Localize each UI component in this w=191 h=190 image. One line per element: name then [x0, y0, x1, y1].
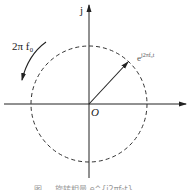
- figure-caption: 图 … 旋转相量 e^{j2πf₀t}: [34, 183, 133, 190]
- vector-label: ej2πf₀t: [137, 52, 154, 63]
- imaginary-axis-label: j: [80, 4, 83, 16]
- phasor-diagram: [0, 0, 191, 190]
- rotation-label: 2π f₀: [12, 40, 33, 52]
- origin-label: O: [91, 106, 99, 118]
- phasor-vector: [89, 62, 128, 104]
